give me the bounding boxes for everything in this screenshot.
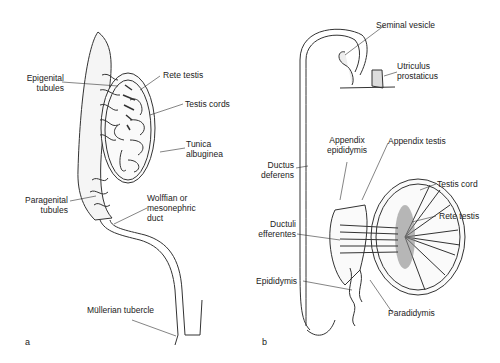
label-appendix-epididymis: Appendix epididymis <box>322 135 372 155</box>
ductus-deferens <box>300 29 367 335</box>
label-line: efferentes <box>250 229 296 239</box>
label-mullerian-tubercle: Müllerian tubercle <box>87 305 154 315</box>
label-testis-cords: Testis cords <box>185 99 230 109</box>
seminal-vesicle <box>339 52 353 85</box>
label-rete-testis-b: Rete testis <box>439 211 479 221</box>
panel-letter-a: a <box>25 337 30 347</box>
label-line: deferens <box>250 170 294 180</box>
label-rete-testis-a: Rete testis <box>163 70 203 80</box>
label-epididymis: Epididymis <box>256 276 297 286</box>
utriculus-prostaticus <box>372 70 383 88</box>
label-line: Utriculus <box>397 61 438 71</box>
label-wolffian-duct: Wolffian or mesonephric duct <box>147 193 196 223</box>
label-line: Wolffian or <box>147 193 196 203</box>
label-line: tubules <box>12 83 64 93</box>
label-line: prostaticus <box>397 71 438 81</box>
label-appendix-testis: Appendix testis <box>388 136 446 146</box>
testis-b <box>371 179 465 295</box>
label-paragenital-tubules: Paragenital tubules <box>12 195 68 215</box>
label-line: Epigenital <box>12 73 64 83</box>
label-line: albuginea <box>186 149 223 159</box>
rete-testis-b <box>395 205 415 269</box>
label-line: Ductuli <box>250 219 296 229</box>
epididymis-head <box>330 205 367 285</box>
label-paradidymis: Paradidymis <box>388 308 435 318</box>
label-epigenital-tubules: Epigenital tubules <box>12 73 64 93</box>
label-utriculus-prostaticus: Utriculus prostaticus <box>397 61 438 81</box>
label-line: epididymis <box>322 145 372 155</box>
label-line: Ductus <box>250 160 294 170</box>
label-testis-cord: Testis cord <box>437 179 478 189</box>
label-line: tubules <box>12 205 68 215</box>
label-line: Appendix <box>322 135 372 145</box>
label-ductus-deferens: Ductus deferens <box>250 160 294 180</box>
epididymis-body <box>349 268 362 326</box>
label-line: Paragenital <box>12 195 68 205</box>
label-tunica-albuginea: Tunica albuginea <box>186 139 223 159</box>
wolffian-duct <box>100 220 185 335</box>
label-ductuli-efferentes: Ductuli efferentes <box>250 219 296 239</box>
label-line: mesonephric <box>147 203 196 213</box>
label-seminal-vesicle: Seminal vesicle <box>376 20 435 30</box>
label-line: Tunica <box>186 139 223 149</box>
label-line: duct <box>147 213 196 223</box>
panel-letter-b: b <box>262 337 267 347</box>
urogenital-sinus <box>175 300 202 345</box>
